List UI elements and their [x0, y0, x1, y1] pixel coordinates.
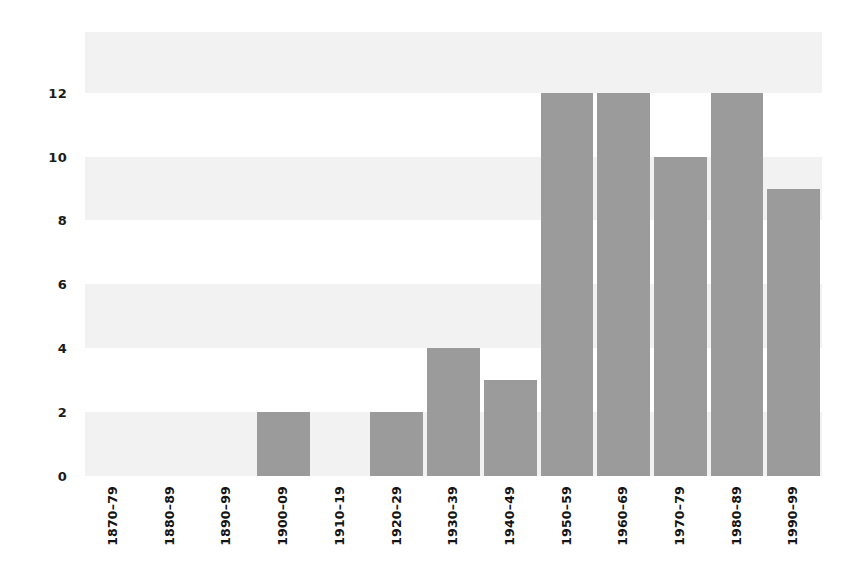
x-tick-label: 1940–49 — [504, 486, 517, 546]
x-tick-label: 1880–89 — [164, 486, 177, 546]
x-tick-slot: 1900–09 — [255, 484, 312, 583]
x-axis: 1870–791880–891890–991900–091910–191920–… — [85, 484, 822, 583]
bar — [597, 93, 650, 476]
bar-slot — [85, 32, 142, 476]
bar-chart: 024681012 1870–791880–891890–991900–0919… — [0, 0, 866, 583]
y-axis: 024681012 — [0, 0, 85, 583]
x-tick-slot: 1910–19 — [312, 484, 369, 583]
x-tick-slot: 1970–79 — [652, 484, 709, 583]
bar-slot — [709, 32, 766, 476]
x-tick-label: 1980–89 — [731, 486, 744, 546]
bar-slot — [368, 32, 425, 476]
x-tick-slot: 1880–89 — [142, 484, 199, 583]
plot-area — [85, 32, 822, 476]
x-tick-label: 1900–09 — [277, 486, 290, 546]
bar — [370, 412, 423, 476]
bar-slot — [595, 32, 652, 476]
x-tick-slot: 1940–49 — [482, 484, 539, 583]
bar — [427, 348, 480, 476]
x-tick-label: 1920–29 — [391, 486, 404, 546]
bar-slot — [312, 32, 369, 476]
bar-slot — [425, 32, 482, 476]
x-tick-slot: 1950–59 — [539, 484, 596, 583]
y-tick-label: 12 — [48, 86, 67, 99]
bar — [484, 380, 537, 476]
y-tick-label: 6 — [58, 278, 67, 291]
y-tick-label: 8 — [58, 214, 67, 227]
x-tick-label: 1960–69 — [617, 486, 630, 546]
x-tick-slot: 1990–99 — [765, 484, 822, 583]
bar — [767, 189, 820, 476]
x-tick-slot: 1960–69 — [595, 484, 652, 583]
x-tick-slot: 1930–39 — [425, 484, 482, 583]
x-tick-label: 1930–39 — [447, 486, 460, 546]
x-tick-label: 1870–79 — [107, 486, 120, 546]
x-tick-slot: 1920–29 — [368, 484, 425, 583]
y-tick-label: 10 — [48, 150, 67, 163]
x-tick-slot: 1890–99 — [198, 484, 255, 583]
bar — [541, 93, 594, 476]
y-tick-label: 2 — [58, 406, 67, 419]
x-tick-label: 1910–19 — [334, 486, 347, 546]
x-tick-slot: 1870–79 — [85, 484, 142, 583]
bar — [654, 157, 707, 476]
bar — [257, 412, 310, 476]
y-tick-label: 0 — [58, 470, 67, 483]
y-tick-label: 4 — [58, 342, 67, 355]
bar-series — [85, 32, 822, 476]
x-tick-label: 1990–99 — [787, 486, 800, 546]
x-tick-slot: 1980–89 — [709, 484, 766, 583]
bar-slot — [142, 32, 199, 476]
bar-slot — [539, 32, 596, 476]
x-tick-label: 1890–99 — [220, 486, 233, 546]
x-tick-label: 1950–59 — [561, 486, 574, 546]
bar-slot — [652, 32, 709, 476]
bar-slot — [482, 32, 539, 476]
bar-slot — [255, 32, 312, 476]
x-tick-label: 1970–79 — [674, 486, 687, 546]
bar — [711, 93, 764, 476]
bar-slot — [198, 32, 255, 476]
bar-slot — [765, 32, 822, 476]
